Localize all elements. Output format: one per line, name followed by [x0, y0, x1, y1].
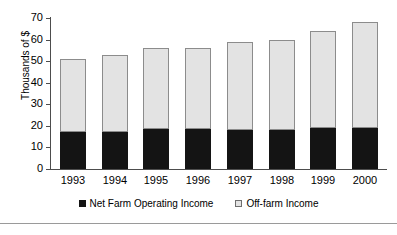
x-axis-tick-label: 1994 — [92, 174, 138, 186]
bar-segment-off-farm-income[interactable] — [60, 59, 86, 132]
x-axis-line — [50, 169, 387, 170]
y-axis-tick-label: 50 — [3, 55, 43, 66]
y-axis-tick-label: 60 — [3, 34, 43, 45]
legend-item[interactable]: Net Farm Operating Income — [79, 198, 214, 209]
bar-segment-off-farm-income[interactable] — [143, 48, 169, 129]
y-axis-tick — [46, 169, 50, 170]
bar-segment-net-farm-operating-income[interactable] — [102, 132, 128, 169]
y-axis-tick-label: 0 — [3, 163, 43, 174]
bar-stack[interactable] — [102, 55, 128, 169]
legend-item-label: Off-farm Income — [246, 198, 318, 209]
bar-segment-net-farm-operating-income[interactable] — [352, 128, 378, 169]
bar-stack[interactable] — [143, 48, 169, 169]
x-axis-tick-label: 1997 — [217, 174, 263, 186]
bar-segment-off-farm-income[interactable] — [352, 22, 378, 128]
chart-legend: Net Farm Operating IncomeOff-farm Income — [0, 198, 397, 209]
y-axis-tick — [46, 61, 50, 62]
empty-light-square-icon — [235, 200, 242, 207]
bar-segment-off-farm-income[interactable] — [310, 31, 336, 128]
bar-segment-net-farm-operating-income[interactable] — [60, 132, 86, 169]
y-axis-tick-label: 30 — [3, 98, 43, 109]
bar-segment-net-farm-operating-income[interactable] — [310, 128, 336, 169]
bar-stack[interactable] — [185, 48, 211, 169]
x-axis-tick-label: 1999 — [300, 174, 346, 186]
y-axis-tick — [46, 147, 50, 148]
y-axis-line — [50, 17, 51, 170]
y-axis-tick — [46, 83, 50, 84]
bar-segment-off-farm-income[interactable] — [102, 55, 128, 133]
bar-segment-off-farm-income[interactable] — [185, 48, 211, 129]
bar-segment-off-farm-income[interactable] — [227, 42, 253, 130]
y-axis-tick — [46, 126, 50, 127]
y-axis-tick — [46, 40, 50, 41]
bar-stack[interactable] — [60, 59, 86, 169]
x-axis-tick-label: 1998 — [259, 174, 305, 186]
bar-segment-net-farm-operating-income[interactable] — [185, 129, 211, 169]
bar-segment-off-farm-income[interactable] — [269, 40, 295, 131]
bar-segment-net-farm-operating-income[interactable] — [227, 130, 253, 169]
bar-segment-net-farm-operating-income[interactable] — [143, 129, 169, 169]
y-axis-tick-label: 40 — [3, 77, 43, 88]
bar-stack[interactable] — [227, 42, 253, 169]
y-axis-tick-label: 70 — [3, 12, 43, 23]
y-axis-tick — [46, 18, 50, 19]
bar-segment-net-farm-operating-income[interactable] — [269, 130, 295, 169]
bottom-divider — [0, 223, 397, 224]
x-axis-tick-label: 1993 — [50, 174, 96, 186]
filled-black-square-icon — [79, 200, 86, 207]
x-axis-tick-label: 2000 — [342, 174, 388, 186]
x-axis-tick-label: 1996 — [175, 174, 221, 186]
legend-item-label: Net Farm Operating Income — [90, 198, 214, 209]
y-axis-tick — [46, 104, 50, 105]
bar-stack[interactable] — [310, 31, 336, 169]
legend-item[interactable]: Off-farm Income — [235, 198, 318, 209]
y-axis-tick-label: 10 — [3, 141, 43, 152]
bar-stack[interactable] — [352, 22, 378, 169]
y-axis-tick-label: 20 — [3, 120, 43, 131]
bar-stack[interactable] — [269, 40, 295, 169]
x-axis-tick-label: 1995 — [133, 174, 179, 186]
bar-chart: Thousands of $ 010203040506070 199319941… — [0, 0, 397, 235]
